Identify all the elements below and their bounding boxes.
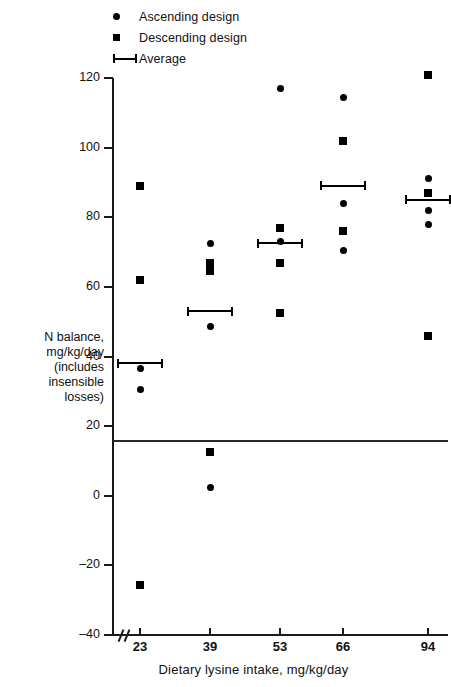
average-bar bbox=[187, 310, 233, 312]
circle-marker-icon bbox=[110, 13, 139, 20]
y-axis-label-line: insensible bbox=[6, 375, 104, 390]
y-axis-label-line: N balance, bbox=[6, 330, 104, 345]
descending-data-point bbox=[136, 276, 144, 284]
ascending-data-point bbox=[207, 484, 214, 491]
legend-label-ascending-design: Ascending design bbox=[139, 10, 239, 24]
scatter-plot-figure: Ascending design Descending design Avera… bbox=[0, 0, 451, 687]
x-tick bbox=[427, 628, 429, 635]
descending-data-point bbox=[424, 189, 432, 197]
y-tick-label: 80 bbox=[52, 209, 100, 223]
average-bar bbox=[117, 362, 163, 364]
average-bar bbox=[257, 242, 303, 244]
y-axis-label-line: mg/kg/day bbox=[6, 345, 104, 360]
ascending-data-point bbox=[277, 85, 284, 92]
y-axis-label-line: losses) bbox=[6, 390, 104, 405]
legend-item-average: Average bbox=[110, 48, 247, 69]
y-tick-label: –20 bbox=[52, 557, 100, 571]
y-axis-label: N balance,mg/kg/day(includesinsensiblelo… bbox=[6, 330, 104, 405]
y-tick bbox=[104, 77, 113, 79]
ascending-data-point bbox=[425, 175, 432, 182]
y-tick-label: 60 bbox=[52, 279, 100, 293]
ascending-data-point bbox=[207, 323, 214, 330]
x-tick bbox=[342, 628, 344, 635]
x-axis-label: Dietary lysine intake, mg/kg/day bbox=[0, 662, 451, 677]
y-tick bbox=[104, 634, 113, 636]
legend-label-average: Average bbox=[139, 52, 186, 66]
y-tick bbox=[104, 216, 113, 218]
descending-data-point bbox=[206, 259, 214, 267]
descending-data-point bbox=[206, 267, 214, 275]
y-tick bbox=[104, 425, 113, 427]
descending-data-point bbox=[136, 581, 144, 589]
average-bar bbox=[405, 199, 451, 201]
x-tick bbox=[209, 628, 211, 635]
legend-item-descending-design: Descending design bbox=[110, 27, 247, 48]
x-tick bbox=[139, 628, 141, 635]
y-tick-label: 100 bbox=[52, 140, 100, 154]
x-tick-label: 94 bbox=[408, 639, 448, 654]
ascending-data-point bbox=[425, 207, 432, 214]
y-tick bbox=[104, 564, 113, 566]
square-marker-icon bbox=[110, 34, 139, 41]
y-tick bbox=[104, 286, 113, 288]
descending-data-point bbox=[424, 71, 432, 79]
ascending-data-point bbox=[340, 200, 347, 207]
average-bar bbox=[320, 185, 366, 187]
x-tick bbox=[279, 628, 281, 635]
ascending-data-point bbox=[340, 247, 347, 254]
y-axis-label-line: (includes bbox=[6, 360, 104, 375]
zero-equilibrium-reference-line bbox=[113, 440, 448, 442]
y-tick-label: –40 bbox=[52, 627, 100, 641]
legend-item-ascending-design: Ascending design bbox=[110, 6, 247, 27]
descending-data-point bbox=[136, 182, 144, 190]
descending-data-point bbox=[424, 332, 432, 340]
y-tick-label: 120 bbox=[52, 70, 100, 84]
legend: Ascending design Descending design Avera… bbox=[110, 6, 247, 69]
average-bar-marker-icon bbox=[110, 54, 139, 63]
ascending-data-point bbox=[207, 240, 214, 247]
x-tick-label: 23 bbox=[120, 639, 160, 654]
descending-data-point bbox=[206, 448, 214, 456]
y-tick bbox=[104, 495, 113, 497]
ascending-data-point bbox=[137, 386, 144, 393]
y-tick-label: 0 bbox=[52, 488, 100, 502]
descending-data-point bbox=[339, 227, 347, 235]
descending-data-point bbox=[276, 259, 284, 267]
legend-label-descending-design: Descending design bbox=[139, 31, 247, 45]
y-tick bbox=[104, 356, 113, 358]
x-tick-label: 39 bbox=[190, 639, 230, 654]
ascending-data-point bbox=[425, 221, 432, 228]
x-tick-label: 66 bbox=[323, 639, 363, 654]
ascending-data-point bbox=[137, 365, 144, 372]
x-tick-label: 53 bbox=[260, 639, 300, 654]
y-tick bbox=[104, 147, 113, 149]
y-tick-label: 20 bbox=[52, 418, 100, 432]
descending-data-point bbox=[276, 224, 284, 232]
descending-data-point bbox=[276, 309, 284, 317]
descending-data-point bbox=[339, 137, 347, 145]
ascending-data-point bbox=[340, 94, 347, 101]
